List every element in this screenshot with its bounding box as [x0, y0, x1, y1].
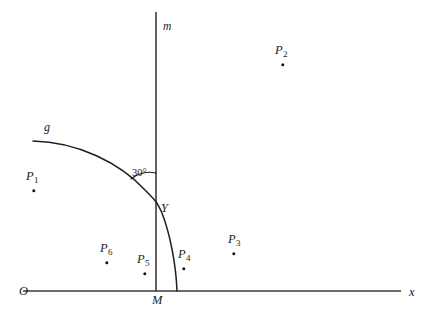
point-name-p3: P: [228, 232, 236, 246]
point-sub-p1: 1: [34, 175, 39, 185]
point-M-label: M: [152, 294, 162, 307]
point-sub-p3: 3: [236, 238, 241, 248]
x-axis-label: x: [409, 286, 415, 299]
line-m-label: m: [163, 21, 171, 33]
point-label-p5: P5: [137, 253, 150, 268]
curve-g-label: g: [44, 121, 50, 133]
point-name-p1: P: [26, 169, 34, 183]
geometry-canvas: [0, 0, 432, 320]
point-label-p1: P1: [26, 170, 39, 185]
point-Y-label: Y: [161, 202, 168, 215]
point-sub-p4: 4: [186, 253, 191, 263]
point-name-p5: P: [137, 252, 145, 266]
angle-30-label: 30°: [132, 168, 147, 179]
point-label-p4: P4: [178, 248, 191, 263]
point-label-p2: P2: [275, 44, 288, 59]
point-sub-p6: 6: [108, 247, 113, 257]
point-label-p6: P6: [100, 242, 113, 257]
point-label-p3: P3: [228, 233, 241, 248]
point-name-p4: P: [178, 247, 186, 261]
point-sub-p2: 2: [283, 49, 288, 59]
geometry-diagram: O x m g 30° Y M P1 P2 P3 P4 P5 P6: [0, 0, 432, 320]
point-sub-p5: 5: [145, 258, 150, 268]
point-name-p6: P: [100, 241, 108, 255]
origin-label: O: [19, 285, 28, 298]
point-name-p2: P: [275, 43, 283, 57]
